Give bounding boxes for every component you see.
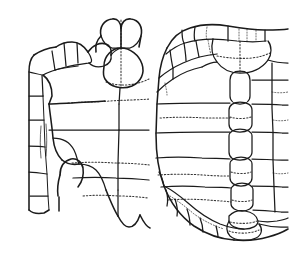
- shell-diagram-plate: [0, 0, 289, 262]
- figure-root: [0, 0, 289, 262]
